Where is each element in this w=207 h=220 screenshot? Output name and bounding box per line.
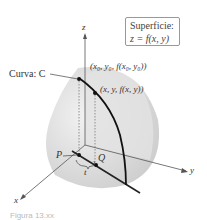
curve-label: Curva: C (9, 68, 45, 79)
y-axis-label: y (190, 165, 194, 175)
point-top-label: (x₀, y₀, f(x₀, y₀)) (90, 61, 146, 71)
x-axis-label: x (14, 195, 18, 205)
z-axis-arrow (83, 33, 87, 39)
t-label: t (84, 167, 87, 177)
y-axis-arrow (181, 168, 188, 173)
figure-caption: Figura 13.xx (10, 211, 54, 220)
surface-label-equation: z = f(x, y) (130, 32, 179, 45)
z-axis-label: z (82, 22, 86, 32)
point-mid-label: (x, y, f(x, y)) (100, 84, 143, 94)
point-p-label: P (56, 149, 62, 160)
point-q-label: Q (98, 152, 105, 163)
surface-label-box: Superficie: z = f(x, y) (125, 17, 180, 46)
surface-label-title: Superficie: (130, 19, 179, 32)
